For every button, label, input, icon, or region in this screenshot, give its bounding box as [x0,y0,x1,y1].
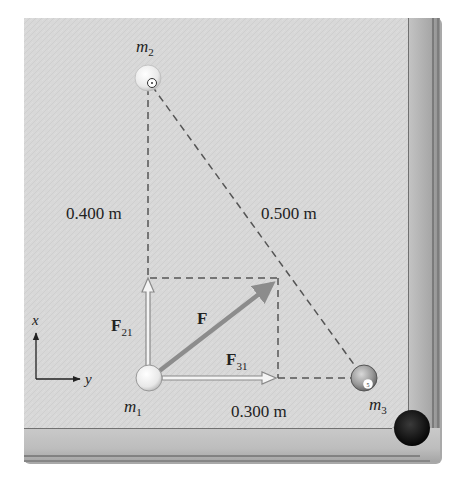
felt-surface [24,18,408,428]
svg-text:5: 5 [367,382,370,388]
y-axis-label: y [83,371,92,387]
ball-m1 [136,365,162,391]
distance-m1-m2: 0.400 m [66,204,122,223]
label-F: F [197,309,207,328]
right-rail [408,18,440,462]
distance-m1-m3: 0.300 m [231,402,287,421]
x-axis-label: x [31,312,39,328]
billiard-force-diagram: 5 m2 m1 m3 0.400 m 0.500 m 0.300 m F21 F… [0,0,464,484]
ball-m2 [135,65,161,91]
ball-m3: 5 [351,365,377,391]
bottom-rail [24,428,440,462]
corner-pocket [394,410,430,446]
distance-m2-m3: 0.500 m [261,204,317,223]
